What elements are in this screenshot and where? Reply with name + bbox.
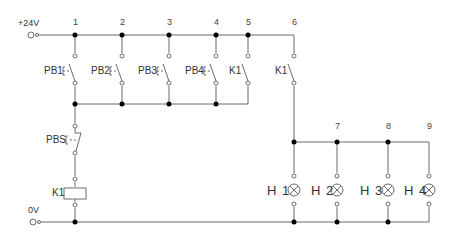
circuit-diagram: +24V 0V 1 2 3 4 5 6 7 8 9 PB1 PB2 PB3 PB… [0,0,457,238]
circuit-wiring [0,0,457,238]
node-label-4: 4 [214,18,219,27]
node-label-6: 6 [292,18,297,27]
lamp-label-h3: H 3 [360,184,383,197]
switch-label-pb4: PB4 [185,66,204,76]
node-label-5: 5 [246,18,251,27]
node-label-2: 2 [120,18,125,27]
lamp-label-h4: H 4 [404,184,427,197]
supply-negative-label: 0V [28,206,39,215]
stop-button-label: PBS [46,135,66,145]
contact-label-k1-hold: K1 [229,66,241,76]
switch-label-pb1: PB1 [44,66,63,76]
lamp-label-h1: H 1 [267,184,290,197]
node-label-7: 7 [335,122,340,131]
node-label-3: 3 [167,18,172,27]
node-label-8: 8 [386,122,391,131]
node-label-9: 9 [427,122,432,131]
switch-label-pb2: PB2 [91,66,110,76]
supply-positive-label: +24V [18,19,39,28]
switch-label-pb3: PB3 [138,66,157,76]
lamp-label-h2: H 2 [311,184,334,197]
node-label-1: 1 [73,18,78,27]
contact-label-k1-output: K1 [275,66,287,76]
coil-label: K1 [52,188,64,198]
